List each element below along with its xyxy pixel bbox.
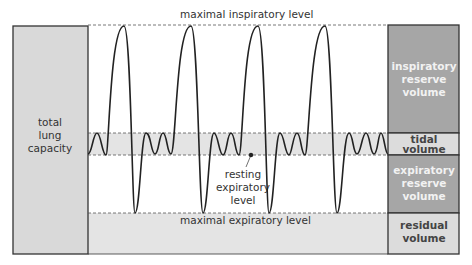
irv-label-1: inspiratory [392, 60, 457, 72]
max-inspiratory-label: maximal inspiratory level [180, 8, 313, 20]
tlc-label-2: lung [39, 129, 62, 141]
resting-point-marker [249, 153, 253, 157]
tv-label-2: volume [402, 143, 445, 155]
tidal-band [88, 133, 388, 155]
lung-volume-diagram: total lung capacity maximal inspiratory … [0, 0, 472, 265]
irv-label-2: reserve [402, 73, 447, 85]
erv-label-2: reserve [402, 177, 447, 189]
irv-label-3: volume [402, 86, 445, 98]
rv-label-2: volume [402, 232, 445, 244]
tlc-label-3: capacity [28, 142, 72, 154]
resting-label-3: level [231, 194, 256, 206]
max-expiratory-label: maximal expiratory level [180, 214, 311, 226]
tlc-label-1: total [38, 116, 62, 128]
resting-label-2: expiratory [216, 181, 270, 193]
rv-label-1: residual [400, 219, 448, 231]
erv-label-1: expiratory [393, 164, 455, 176]
erv-label-3: volume [402, 190, 445, 202]
resting-label-1: resting [225, 168, 261, 180]
